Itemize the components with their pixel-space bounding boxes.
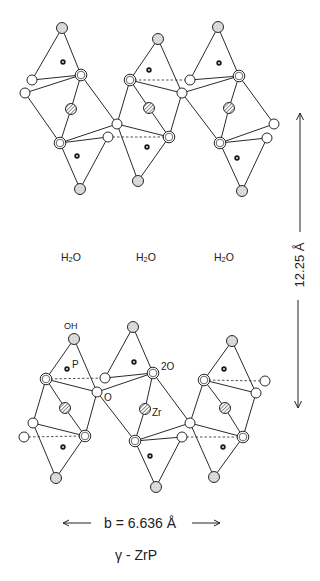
phosphorus-atom bbox=[221, 445, 225, 449]
oxygen-atom bbox=[28, 418, 38, 428]
oh-atom bbox=[227, 336, 238, 347]
phosphorus-atom bbox=[61, 60, 65, 64]
phosphorus-atom bbox=[222, 367, 226, 371]
zirconium-atom bbox=[140, 404, 151, 415]
oxygen-atom bbox=[262, 133, 272, 143]
oh-atom bbox=[133, 176, 144, 187]
double-oxygen-atom bbox=[75, 69, 87, 81]
lattice-b-indicator: b = 6.636 Å bbox=[63, 515, 220, 531]
double-oxygen-atom bbox=[54, 137, 66, 149]
zirconium-atom bbox=[224, 103, 235, 114]
oxygen-atom bbox=[112, 119, 122, 129]
oh-label: OH bbox=[64, 321, 78, 331]
oh-atom bbox=[51, 473, 62, 484]
double-oxygen-atom bbox=[147, 367, 159, 379]
interlayer-distance-label: 12.25 Å bbox=[292, 242, 307, 287]
zr-label: Zr bbox=[152, 407, 162, 418]
phosphorus-atom bbox=[132, 360, 136, 364]
lattice-b-label: b = 6.636 Å bbox=[104, 515, 177, 531]
oxygen-atom bbox=[27, 75, 37, 85]
top-layer-atoms bbox=[20, 22, 279, 197]
oh-atom bbox=[153, 34, 164, 45]
phosphorus-atom bbox=[61, 445, 65, 449]
o-label: O bbox=[104, 392, 112, 403]
oh-atom bbox=[75, 184, 86, 195]
double-oxygen-atom bbox=[129, 435, 141, 447]
oxygen-atom bbox=[20, 88, 30, 98]
oxygen-atom bbox=[185, 75, 195, 85]
oxygen-atom bbox=[177, 88, 187, 98]
oxygen-atom bbox=[260, 376, 270, 386]
double-oxygen-atom bbox=[214, 137, 226, 149]
double-oxygen-atom bbox=[163, 131, 175, 143]
oh-atom bbox=[69, 334, 80, 345]
bottom-layer: OH P O 2O Zr bbox=[19, 321, 270, 493]
phosphorus-atom bbox=[235, 156, 239, 160]
two-o-label: 2O bbox=[161, 361, 175, 372]
oh-atom bbox=[237, 186, 248, 197]
double-oxygen-atom bbox=[237, 431, 249, 443]
double-oxygen-atom bbox=[124, 74, 136, 86]
phosphorus-atom bbox=[65, 367, 69, 371]
oh-atom bbox=[213, 22, 224, 33]
oh-atom bbox=[128, 322, 139, 333]
oh-atom bbox=[57, 23, 68, 34]
oxygen-atom bbox=[19, 432, 29, 442]
double-oxygen-atom bbox=[198, 374, 210, 386]
p-label: P bbox=[72, 359, 79, 370]
figure-title: γ - ZrP bbox=[115, 547, 157, 563]
zirconium-atom bbox=[220, 403, 231, 414]
phosphorus-atom bbox=[217, 61, 221, 65]
oxygen-atom bbox=[177, 432, 187, 442]
bottom-layer-atoms bbox=[19, 322, 270, 493]
phosphorus-atom bbox=[145, 145, 149, 149]
oxygen-atom bbox=[92, 387, 102, 397]
oh-atom bbox=[209, 472, 220, 483]
double-oxygen-atom bbox=[233, 70, 245, 82]
phosphorus-atom bbox=[148, 454, 152, 458]
phosphorus-atom bbox=[75, 154, 79, 158]
oxygen-atom bbox=[185, 418, 195, 428]
crystal-structure-diagram: H2O H2O H2O 12.25 Å bbox=[0, 0, 320, 581]
oxygen-atom bbox=[251, 388, 261, 398]
zirconium-atom bbox=[60, 403, 71, 414]
water-label: H2O bbox=[61, 251, 81, 264]
interlayer-distance-indicator: 12.25 Å bbox=[292, 113, 307, 408]
double-oxygen-atom bbox=[79, 430, 91, 442]
zirconium-atom bbox=[144, 103, 155, 114]
oxygen-atom bbox=[100, 373, 110, 383]
top-layer bbox=[20, 22, 279, 197]
oh-atom bbox=[151, 482, 162, 493]
water-label: H2O bbox=[214, 251, 234, 264]
phosphorus-atom bbox=[147, 68, 151, 72]
water-label: H2O bbox=[136, 251, 156, 264]
zirconium-atom bbox=[66, 104, 77, 115]
double-oxygen-atom bbox=[40, 373, 52, 385]
water-layer: H2O H2O H2O bbox=[61, 251, 234, 264]
oxygen-atom bbox=[269, 119, 279, 129]
oxygen-atom bbox=[103, 132, 113, 142]
